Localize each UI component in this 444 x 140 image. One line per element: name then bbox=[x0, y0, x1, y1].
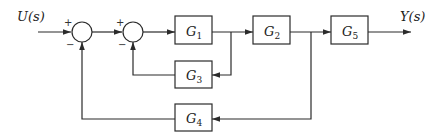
wire-g4-to-sum1 bbox=[82, 42, 175, 119]
block-diagram: U(s) + − + − G1 G2 G5 Y(s) G3 bbox=[0, 0, 444, 140]
block-g2: G2 bbox=[253, 16, 290, 44]
wire-g1-branch-to-g3 bbox=[212, 32, 231, 75]
block-g3: G3 bbox=[175, 61, 212, 88]
block-g1: G1 bbox=[175, 16, 212, 44]
block-g5: G5 bbox=[331, 16, 368, 44]
sum2-minus-sign: − bbox=[118, 39, 126, 50]
sum2-plus-sign: + bbox=[116, 17, 124, 28]
summing-junction-2: + − bbox=[116, 17, 143, 50]
output-label: Y(s) bbox=[400, 9, 425, 24]
input-label: U(s) bbox=[17, 9, 45, 24]
block-g4: G4 bbox=[175, 104, 212, 131]
wire-g3-to-sum2 bbox=[133, 42, 175, 75]
sum1-minus-sign: − bbox=[66, 39, 74, 50]
sum1-plus-sign: + bbox=[64, 17, 72, 28]
summing-junction-1: + − bbox=[64, 17, 92, 50]
